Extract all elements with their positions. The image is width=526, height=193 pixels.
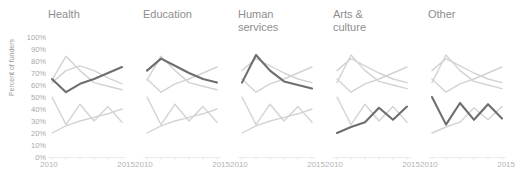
panel-title: Health xyxy=(48,8,80,21)
plot-area xyxy=(143,37,221,157)
plot-area xyxy=(48,37,126,157)
context-line xyxy=(147,97,217,125)
y-axis-tick: 90% xyxy=(2,46,46,53)
plot-area xyxy=(238,37,316,157)
x-axis-tick-label-end: 2015 xyxy=(497,160,515,169)
x-axis-tick-label-start: 2010 xyxy=(420,160,438,169)
y-axis-tick: 80% xyxy=(2,58,46,65)
highlight-line xyxy=(432,97,502,125)
y-axis-tick: 10% xyxy=(2,142,46,149)
x-axis-tick-label-start: 2010 xyxy=(135,160,153,169)
y-axis-tick: 60% xyxy=(2,82,46,89)
panel-title: Other xyxy=(428,8,456,21)
panel-human-services: Human services20102015 xyxy=(238,0,316,193)
plot-area xyxy=(428,37,506,157)
panel-other: Other20102015 xyxy=(428,0,506,193)
context-line xyxy=(52,97,122,125)
panel-title: Human services xyxy=(238,8,278,33)
panel-health: Health20102015 xyxy=(48,0,126,193)
x-axis-tick-label-start: 2010 xyxy=(40,160,58,169)
y-axis-tick: 100% xyxy=(2,34,46,41)
y-axis-tick: 50% xyxy=(2,94,46,101)
small-multiples-chart: Percent of funders 100%90%80%70%60%50%40… xyxy=(0,0,526,193)
panel-arts-and-culture: Arts & culture20102015 xyxy=(333,0,411,193)
x-axis-tick-label-start: 2010 xyxy=(230,160,248,169)
y-axis-tick: 40% xyxy=(2,106,46,113)
y-axis-tick: 20% xyxy=(2,130,46,137)
panel-education: Education20102015 xyxy=(143,0,221,193)
y-axis-tick: 70% xyxy=(2,70,46,77)
x-axis-tick-label-start: 2010 xyxy=(325,160,343,169)
highlight-line xyxy=(147,59,217,83)
panel-title: Arts & culture xyxy=(333,8,366,33)
x-axis-tick-label-end: 2015 xyxy=(117,160,135,169)
x-axis-tick-label-end: 2015 xyxy=(402,160,420,169)
x-axis-tick-label-end: 2015 xyxy=(212,160,230,169)
y-axis-tick: 30% xyxy=(2,118,46,125)
context-line xyxy=(242,97,312,125)
plot-area xyxy=(333,37,411,157)
panel-title: Education xyxy=(143,8,192,21)
context-line xyxy=(337,97,407,125)
x-axis-tick-label-end: 2015 xyxy=(307,160,325,169)
